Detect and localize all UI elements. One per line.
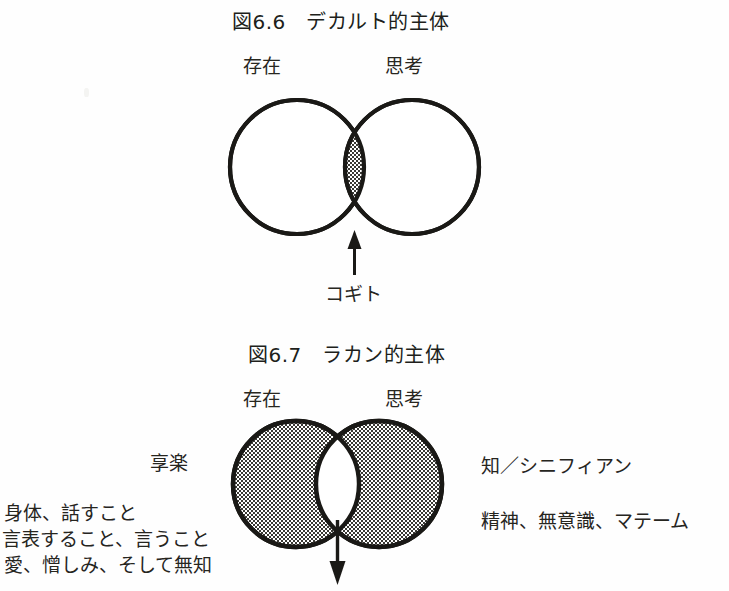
figure-2-left-annotation-line-1: 身体、話すこと — [4, 500, 137, 526]
figure-2-left-annotation-heading: 享楽 — [150, 450, 188, 476]
figure-2-right-circle-label: 思考 — [385, 390, 423, 409]
figure-2-venn-diagram — [225, 420, 515, 591]
figure-2-right-annotation-line-1: 精神、無意識、マテーム — [481, 508, 689, 534]
scanned-page: 図6.6 デカルト的主体 存在 思考 — [0, 0, 729, 591]
figure-2-left-annotation-line-2: 言表すること、言うこと — [2, 526, 210, 552]
figure-2-left-annotation-line-3: 愛、憎しみ、そして無知 — [4, 552, 212, 578]
figure-2-right-annotation-heading: 知／シニフィアン — [481, 453, 632, 479]
figure-2-title: 図6.7 ラカン的主体 — [248, 345, 445, 365]
figure-1-left-circle-label: 存在 — [243, 57, 281, 76]
figure-1-venn-diagram — [210, 90, 510, 305]
figure-1-arrow-label: コギト — [325, 285, 382, 304]
scan-artifact-speck — [84, 88, 89, 97]
figure-2-left-circle-label: 存在 — [243, 390, 281, 409]
figure-1-right-circle-label: 思考 — [385, 57, 423, 76]
figure-1-arrow-up — [348, 230, 362, 275]
figure-1-title: 図6.6 デカルト的主体 — [232, 12, 450, 32]
